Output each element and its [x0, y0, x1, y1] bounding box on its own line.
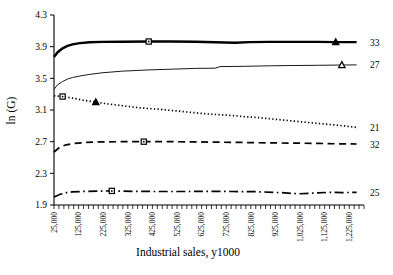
chart-canvas: 1.92.32.73.13.53.94.325,000125,000225,00… [0, 0, 393, 275]
series-line-27 [54, 65, 357, 90]
series-33-square-marker-dot [148, 41, 150, 43]
y-axis-tick-label: 2.3 [35, 169, 47, 179]
series-33-triangle-marker [333, 39, 339, 45]
y-axis-tick-label: 3.9 [35, 42, 47, 52]
y-axis-title: ln (G) [4, 71, 19, 151]
x-axis-tick-label: 225,000 [99, 212, 108, 237]
series-21-triangle-marker [93, 99, 99, 105]
series-end-label-27: 27 [370, 60, 380, 70]
series-line-32 [54, 142, 357, 152]
y-axis-tick-label: 4.3 [35, 10, 47, 20]
line-chart-figure: 1.92.32.73.13.53.94.325,000125,000225,00… [0, 0, 393, 275]
series-end-label-32: 32 [370, 140, 380, 150]
x-axis-tick-label: 1,225,000 [345, 212, 354, 242]
series-end-label-33: 33 [370, 38, 380, 48]
series-end-label-25: 25 [370, 188, 380, 198]
series-end-label-21: 21 [370, 123, 380, 133]
x-axis-tick-label: 25,000 [50, 212, 59, 233]
x-axis-tick-label: 1,025,000 [296, 212, 305, 242]
y-axis-tick-label: 2.7 [35, 137, 47, 147]
series-21-square-marker-dot [62, 96, 64, 98]
series-32-square-marker-dot [143, 141, 145, 143]
x-axis-tick-label: 325,000 [124, 212, 133, 237]
y-axis-tick-label: 3.1 [35, 105, 47, 115]
axis-spine [54, 15, 364, 205]
series-25-square-marker-dot [111, 190, 113, 192]
series-line-33 [54, 42, 357, 58]
y-axis-tick-label: 3.5 [35, 74, 47, 84]
x-axis-tick-label: 525,000 [173, 212, 182, 237]
x-axis-tick-label: 825,000 [247, 212, 256, 237]
x-axis-tick-label: 425,000 [148, 212, 157, 237]
x-axis-tick-label: 725,000 [222, 212, 231, 237]
series-line-21 [54, 96, 357, 128]
series-27-triangle-marker [339, 62, 345, 68]
x-axis-tick-label: 625,000 [197, 212, 206, 237]
x-axis-tick-label: 1,125,000 [320, 212, 329, 242]
y-axis-tick-label: 1.9 [35, 200, 47, 210]
x-axis-tick-label: 925,000 [271, 212, 280, 237]
series-line-25 [54, 191, 357, 197]
x-axis-title: Industrial sales, y1000 [40, 245, 336, 260]
x-axis-tick-label: 125,000 [74, 212, 83, 237]
